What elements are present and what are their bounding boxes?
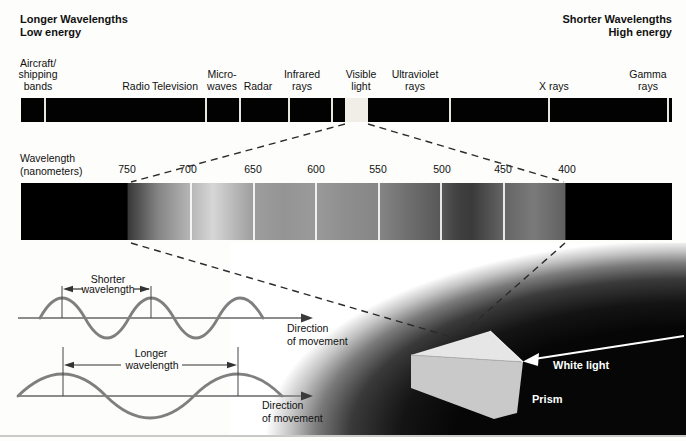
white-light-label: White light bbox=[553, 359, 609, 371]
crest-ticks bbox=[62, 286, 238, 396]
prism-front-face bbox=[411, 355, 523, 419]
longer-title: Longer bbox=[135, 348, 168, 360]
white-light-arrowhead bbox=[523, 353, 539, 366]
shorter-wavelength-label: wavelength bbox=[81, 284, 134, 296]
direction-of-movement-1: Direction of movement bbox=[287, 322, 348, 348]
direction-of-movement-2: Direction of movement bbox=[262, 399, 323, 425]
white-light-ray bbox=[534, 336, 684, 359]
prism-label: Prism bbox=[532, 393, 563, 405]
line-art-overlay bbox=[0, 0, 686, 441]
prism-shape bbox=[411, 331, 523, 419]
longer-wavelength-label: wavelength bbox=[125, 360, 178, 372]
dashed-projection-lines bbox=[131, 124, 565, 339]
em-spectrum-figure: Longer Wavelengths Low energy Shorter Wa… bbox=[0, 0, 686, 441]
